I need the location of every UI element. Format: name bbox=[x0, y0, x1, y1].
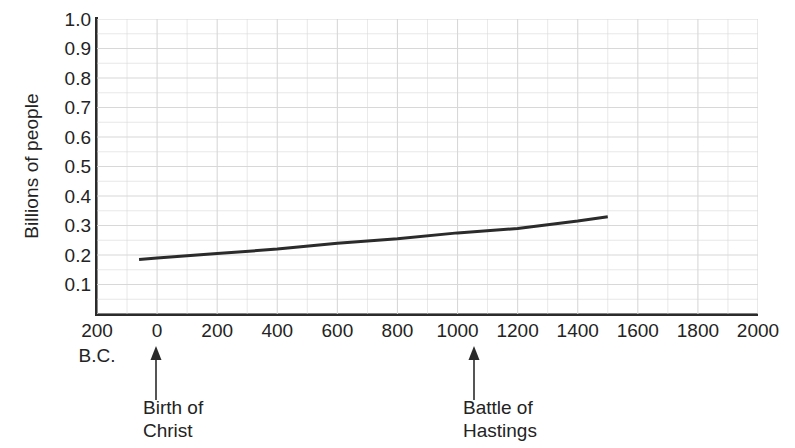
y-tick-label: 0.9 bbox=[31, 39, 91, 58]
battle-of-hastings-label-line2: Hastings bbox=[463, 419, 537, 442]
y-tick-label: 0.5 bbox=[31, 157, 91, 176]
birth-of-christ-label-line1: Birth of bbox=[143, 396, 203, 419]
battle-of-hastings-label-line1: Battle of bbox=[463, 396, 533, 419]
birth-of-christ-label-line2: Christ bbox=[143, 419, 193, 442]
plot-area bbox=[97, 19, 758, 314]
birth-of-christ-arrow-icon bbox=[143, 342, 169, 400]
battle-of-hastings-arrow-icon bbox=[461, 342, 487, 400]
y-tick-label: 0.6 bbox=[31, 128, 91, 147]
y-tick-label: 0.1 bbox=[31, 275, 91, 294]
y-tick-label: 0.4 bbox=[31, 187, 91, 206]
population-line-chart: Billions of people 1.00.90.80.70.60.50.4… bbox=[0, 0, 795, 448]
data-line bbox=[139, 217, 608, 260]
y-tick-label: 0.7 bbox=[31, 98, 91, 117]
y-axis-tick-labels: 1.00.90.80.70.60.50.40.30.20.1 bbox=[27, 0, 91, 330]
x-tick-label: 2000 bbox=[713, 320, 795, 342]
x-axis-tick-labels: 2000200400600800100012001400160018002000 bbox=[0, 320, 795, 346]
y-tick-label: 1.0 bbox=[31, 10, 91, 29]
data-series-layer bbox=[97, 19, 758, 314]
y-tick-label: 0.8 bbox=[31, 69, 91, 88]
y-tick-label: 0.2 bbox=[31, 246, 91, 265]
x-axis-bc-note: B.C. bbox=[52, 345, 142, 367]
y-tick-label: 0.3 bbox=[31, 216, 91, 235]
